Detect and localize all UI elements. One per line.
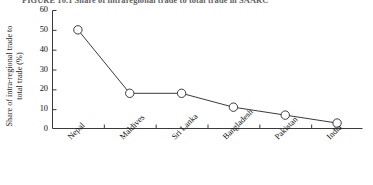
y-axis-title-line1: Share of intra-regional trade to bbox=[5, 26, 14, 127]
data-point-marker bbox=[74, 26, 82, 34]
plot-area bbox=[52, 10, 363, 129]
y-axis-tick-marks bbox=[53, 11, 57, 130]
data-point-marker bbox=[126, 89, 134, 97]
data-series-line bbox=[78, 30, 337, 123]
y-tick-label: 10 bbox=[26, 105, 48, 113]
y-axis-tick-labels: 0102030405060 bbox=[26, 10, 48, 129]
x-axis-tick-labels: NepalMaldivesSri LankaBangladeshPakistan… bbox=[52, 131, 363, 185]
y-axis-title-line2: total trade (%) bbox=[15, 26, 25, 127]
data-point-marker bbox=[229, 103, 237, 111]
y-tick-label: 0 bbox=[26, 125, 48, 133]
data-point-marker bbox=[177, 89, 185, 97]
y-tick-label: 20 bbox=[26, 85, 48, 93]
y-tick-label: 60 bbox=[26, 6, 48, 14]
data-series-markers bbox=[74, 26, 342, 128]
y-tick-label: 30 bbox=[26, 66, 48, 74]
y-tick-label: 50 bbox=[26, 26, 48, 34]
figure-caption-strip: FIGURE 10.1 Share of intraregional trade… bbox=[0, 0, 373, 6]
figure-container: FIGURE 10.1 Share of intraregional trade… bbox=[0, 0, 373, 185]
figure-caption: FIGURE 10.1 Share of intraregional trade… bbox=[0, 0, 373, 6]
y-tick-label: 40 bbox=[26, 46, 48, 54]
axes bbox=[53, 11, 363, 129]
